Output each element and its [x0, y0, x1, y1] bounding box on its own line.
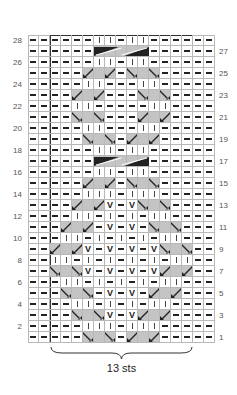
stitch-slip: V [127, 244, 138, 255]
purl-icon [184, 303, 190, 305]
stitch-purl [171, 321, 182, 332]
stitch-purl [182, 68, 193, 79]
stitch-purl [171, 332, 182, 343]
purl-icon [206, 281, 212, 283]
stitch-purl [182, 178, 193, 189]
stitch-purl [94, 101, 105, 112]
stitch-left-slant [149, 68, 160, 79]
stitch-gray-cable-fill [138, 332, 149, 343]
stitch-knit [138, 189, 149, 200]
purl-icon [74, 336, 80, 338]
slip-icon: V [85, 245, 91, 254]
purl-icon [107, 83, 113, 85]
purl-icon [30, 160, 36, 162]
purl-icon [107, 237, 113, 239]
stitch-purl [160, 134, 171, 145]
left-slant-icon [83, 332, 93, 342]
stitch-slip: V [127, 200, 138, 211]
row-number: 20 [8, 124, 22, 133]
purl-icon [184, 94, 190, 96]
purl-icon [173, 105, 179, 107]
stitch-left-slant [105, 134, 116, 145]
purl-icon [184, 237, 190, 239]
stitch-purl [204, 288, 215, 299]
stitch-purl [61, 200, 72, 211]
purl-icon [118, 270, 124, 272]
stitch-knit [127, 189, 138, 200]
purl-icon [151, 50, 157, 52]
stitch-purl [116, 189, 127, 200]
purl-icon [118, 127, 124, 129]
knit-icon [165, 213, 166, 219]
stitch-purl [28, 68, 39, 79]
purl-icon [41, 292, 47, 294]
knit-icon [88, 103, 89, 109]
purl-icon [118, 182, 124, 184]
row-number: 24 [8, 80, 22, 89]
stitch-slip: V [105, 266, 116, 277]
stitch-purl [127, 112, 138, 123]
stitch-knit [160, 277, 171, 288]
stitch-gray-cable-fill [138, 134, 149, 145]
purl-icon [206, 292, 212, 294]
stitch-knit [94, 79, 105, 90]
row-number: 26 [8, 58, 22, 67]
purl-icon [41, 50, 47, 52]
purl-icon [96, 215, 102, 217]
purl-icon [184, 72, 190, 74]
stitch-purl [171, 112, 182, 123]
purl-icon [184, 39, 190, 41]
purl-icon [140, 215, 146, 217]
purl-icon [52, 204, 58, 206]
stitch-purl [61, 35, 72, 46]
stitch-purl [83, 46, 94, 57]
stitch-knit [61, 255, 72, 266]
purl-icon [195, 182, 201, 184]
purl-icon [173, 160, 179, 162]
stitch-purl [171, 156, 182, 167]
purl-icon [129, 127, 135, 129]
stitch-slip: V [105, 222, 116, 233]
stitch-purl [50, 101, 61, 112]
stitch-knit [116, 233, 127, 244]
purl-icon [173, 325, 179, 327]
knit-icon [187, 257, 188, 263]
stitch-purl [39, 332, 50, 343]
stitch-purl [50, 112, 61, 123]
stitch-purl [50, 200, 61, 211]
stitch-knit [138, 57, 149, 68]
stitch-left-slant [72, 266, 83, 277]
stitch-purl [72, 156, 83, 167]
stitch-purl [193, 299, 204, 310]
purl-icon [140, 259, 146, 261]
stitch-purl [61, 123, 72, 134]
stitch-purl [50, 35, 61, 46]
knit-icon [132, 323, 133, 329]
stitch-purl [127, 79, 138, 90]
stitch-purl [39, 277, 50, 288]
stitch-right-slant [149, 332, 160, 343]
knit-icon [154, 301, 155, 307]
right-slant-icon [50, 244, 60, 254]
right-slant-icon [61, 222, 71, 232]
stitch-purl [116, 255, 127, 266]
purl-icon [162, 39, 168, 41]
stitch-gray-cable-fill [83, 90, 94, 101]
purl-icon [206, 171, 212, 173]
purl-icon [195, 39, 201, 41]
stitch-knit [182, 255, 193, 266]
purl-icon [74, 138, 80, 140]
row-number: 10 [8, 234, 22, 243]
stitch-purl [72, 167, 83, 178]
stitch-purl [105, 123, 116, 134]
stitch-knit [105, 35, 116, 46]
stitch-purl [182, 211, 193, 222]
stitch-purl [193, 189, 204, 200]
purl-icon [30, 248, 36, 250]
stitch-purl [204, 134, 215, 145]
purl-icon [184, 105, 190, 107]
purl-icon [118, 171, 124, 173]
stitch-purl [193, 178, 204, 189]
stitch-slip: V [105, 310, 116, 321]
stitch-left-slant [160, 244, 171, 255]
